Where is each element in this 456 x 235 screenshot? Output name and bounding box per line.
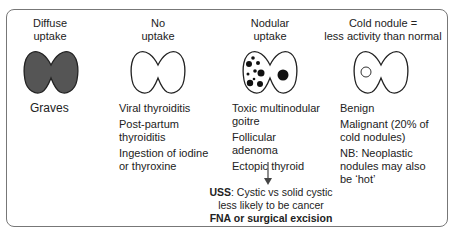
uss-line3: FNA or surgical excision	[210, 212, 333, 224]
header-line: uptake	[128, 30, 188, 43]
cause-item: Ingestion of iodine or thyroxine	[119, 147, 214, 173]
uss-note: USS: Cystic vs solid cystic less likely …	[196, 186, 346, 225]
header-line: Nodular	[240, 17, 300, 30]
thyroid-empty-icon	[129, 47, 187, 97]
header-line: No	[128, 17, 188, 30]
thyroid-cold-nodule-icon	[352, 47, 410, 97]
causes-nodular: Toxic multinodular goitre Follicular ade…	[232, 102, 322, 176]
uss-label: USS	[209, 186, 231, 198]
header-nodular: Nodular uptake	[240, 17, 300, 43]
causes-cold-nodule: Benign Malignant (20% of cold nodules) N…	[340, 102, 430, 189]
cause-item: Ectopic thyroid	[232, 160, 322, 173]
cause-item: Follicular adenoma	[232, 131, 322, 157]
header-line: Diffuse	[20, 17, 80, 30]
cause-item: Post-partum thyroiditis	[119, 118, 214, 144]
header-no-uptake: No uptake	[128, 17, 188, 43]
uss-line2: less likely to be cancer	[196, 199, 346, 212]
header-line: less activity than normal	[318, 30, 448, 43]
arrow-down-icon	[263, 162, 273, 186]
header-line: Cold nodule =	[318, 17, 448, 30]
cause-item: Malignant (20% of cold nodules)	[340, 118, 430, 144]
cause-item: Graves	[30, 102, 100, 115]
cause-item: Viral thyroiditis	[119, 102, 214, 115]
cause-item: Benign	[340, 102, 430, 115]
cause-item: Toxic multinodular goitre	[232, 102, 322, 128]
causes-diffuse: Graves	[30, 102, 100, 118]
thyroid-nodular-icon	[241, 47, 299, 97]
header-line: uptake	[20, 30, 80, 43]
header-line: uptake	[240, 30, 300, 43]
uss-line1: : Cystic vs solid cystic	[231, 186, 333, 198]
thyroid-filled-icon	[22, 47, 80, 97]
header-diffuse: Diffuse uptake	[20, 17, 80, 43]
header-cold-nodule: Cold nodule = less activity than normal	[318, 17, 448, 43]
causes-no-uptake: Viral thyroiditis Post-partum thyroiditi…	[119, 102, 214, 176]
cause-item: NB: Neoplastic nodules may also be ‘hot’	[340, 147, 430, 186]
